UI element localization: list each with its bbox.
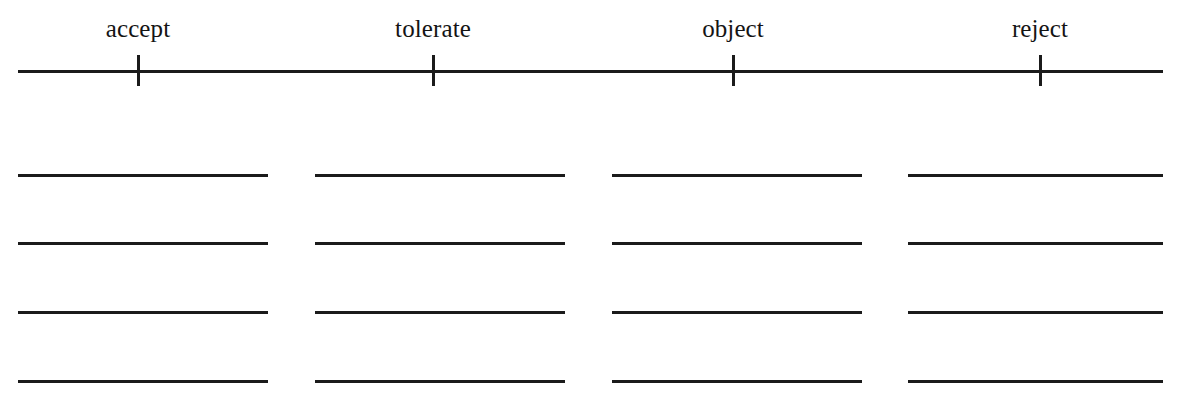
writing-line[interactable] <box>612 174 862 177</box>
writing-line[interactable] <box>315 174 565 177</box>
response-column-accept[interactable] <box>18 0 268 412</box>
response-column-tolerate[interactable] <box>315 0 565 412</box>
writing-line[interactable] <box>315 311 565 314</box>
response-column-reject[interactable] <box>908 0 1163 412</box>
writing-line[interactable] <box>908 174 1163 177</box>
writing-line[interactable] <box>315 242 565 245</box>
writing-line[interactable] <box>908 311 1163 314</box>
writing-line[interactable] <box>612 380 862 383</box>
writing-line[interactable] <box>612 311 862 314</box>
writing-line[interactable] <box>18 380 268 383</box>
writing-line[interactable] <box>18 311 268 314</box>
response-line-grid <box>0 0 1183 412</box>
writing-line[interactable] <box>612 242 862 245</box>
writing-line[interactable] <box>908 242 1163 245</box>
writing-line[interactable] <box>18 174 268 177</box>
writing-line[interactable] <box>18 242 268 245</box>
writing-line[interactable] <box>908 380 1163 383</box>
response-column-object[interactable] <box>612 0 862 412</box>
worksheet-page: accepttolerateobjectreject <box>0 0 1183 412</box>
writing-line[interactable] <box>315 380 565 383</box>
